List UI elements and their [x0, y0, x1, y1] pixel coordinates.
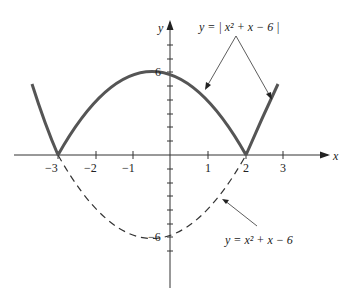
- tick-label-6: 6: [155, 65, 161, 79]
- parabola-pointer: [224, 200, 257, 226]
- tick-label-m2: −2: [84, 161, 97, 175]
- abs-curve-left-branch: [32, 84, 58, 155]
- abs-curve: [58, 72, 246, 156]
- tick-label-1: 1: [205, 161, 211, 175]
- tick-label-3: 3: [280, 161, 286, 175]
- arrowhead-icon: [266, 92, 272, 100]
- arrowhead-icon: [205, 82, 211, 90]
- tick-label-2: 2: [243, 161, 249, 175]
- x-axis-label: x: [332, 149, 339, 163]
- x-axis-arrow-icon: [320, 152, 330, 159]
- tick-label-m6: −6: [148, 230, 161, 244]
- tick-label-m3: −3: [45, 161, 58, 175]
- abs-curve-label: y = | x² + x − 6 |: [198, 20, 279, 34]
- y-axis-label: y: [157, 21, 164, 35]
- tick-label-m1: −1: [122, 161, 135, 175]
- graph: y x y = | x² + x − 6 | y = x² + x − 6 −3…: [0, 0, 341, 296]
- y-axis-arrow-icon: [167, 20, 174, 30]
- abs-curve-right-branch: [246, 84, 278, 155]
- abs-pointer-right: [236, 36, 271, 98]
- parabola-label: y = x² + x − 6: [224, 233, 293, 247]
- abs-pointer-left: [206, 36, 236, 88]
